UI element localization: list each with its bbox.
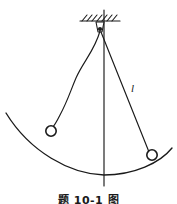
hatch-mark-icon (97, 15, 102, 21)
right-cord (101, 32, 149, 152)
hatch-mark-icon (112, 15, 117, 21)
hatch-mark-icon (92, 15, 97, 21)
ceiling-support-group (80, 15, 120, 21)
hatch-mark-icon (82, 15, 87, 21)
right-bob (147, 150, 157, 160)
cord-length-label: l (131, 82, 134, 94)
left-cord (52, 31, 100, 128)
figure-caption: 题 10-1 图 (0, 191, 177, 204)
hatch-mark-icon (87, 15, 92, 21)
swing-arc (6, 113, 172, 175)
pendulum-diagram: l (0, 0, 177, 204)
hatch-marks-group (82, 15, 117, 21)
figure-container: l 题 10-1 图 (0, 0, 177, 204)
hatch-mark-icon (107, 15, 112, 21)
left-bob (46, 126, 56, 136)
